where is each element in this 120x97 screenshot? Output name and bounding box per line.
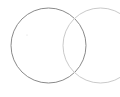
- right-circle: [63, 8, 120, 83]
- venn-diagram: [0, 0, 120, 97]
- left-circle: [11, 8, 86, 83]
- diagram-canvas: [0, 0, 120, 97]
- marker-dot: [26, 34, 27, 35]
